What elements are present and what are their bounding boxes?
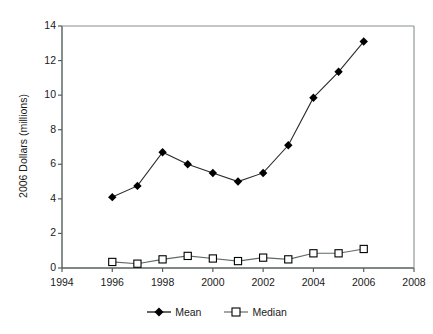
x-tick-label: 1996	[86, 276, 138, 288]
x-tick-label: 2008	[388, 276, 433, 288]
data-point-marker-mean	[133, 182, 141, 190]
x-tick-label: 1994	[36, 276, 88, 288]
data-point-marker-median	[159, 256, 166, 263]
y-tick-label: 2	[18, 226, 56, 238]
data-point-marker-median	[310, 250, 317, 257]
data-point-marker-mean	[209, 169, 217, 177]
data-point-marker-median	[234, 257, 241, 264]
data-point-marker-median	[360, 245, 367, 252]
legend-label-median: Median	[252, 307, 286, 318]
y-tick-label: 14	[18, 19, 56, 31]
legend-marker-open-square	[223, 306, 249, 318]
legend-item-mean: Mean	[146, 306, 201, 318]
data-point-marker-median	[335, 250, 342, 257]
data-series-layer	[108, 37, 368, 267]
y-tick-label: 10	[18, 88, 56, 100]
data-point-marker-median	[285, 256, 292, 263]
chart-legend: Mean Median	[0, 306, 433, 318]
axis-lines	[62, 26, 414, 268]
y-tick-label: 8	[18, 123, 56, 135]
y-axis-title: 2006 Dollars (millions)	[17, 61, 29, 231]
chart-container: 2006 Dollars (millions) 02468101214 1994…	[0, 0, 433, 334]
x-tick-label: 2000	[187, 276, 239, 288]
legend-marker-filled-diamond	[146, 306, 172, 318]
y-tick-label: 4	[18, 192, 56, 204]
y-tick-label: 6	[18, 157, 56, 169]
y-tick-label: 12	[18, 54, 56, 66]
data-point-marker-median	[184, 252, 191, 259]
x-tick-label: 2006	[338, 276, 390, 288]
data-point-marker-mean	[234, 177, 242, 185]
legend-item-median: Median	[223, 306, 286, 318]
data-point-marker-mean	[108, 193, 116, 201]
y-tick-label: 0	[18, 261, 56, 273]
data-point-marker-median	[109, 258, 116, 265]
x-tick-label: 1998	[137, 276, 189, 288]
data-point-marker-mean	[158, 148, 166, 156]
data-point-marker-median	[260, 254, 267, 261]
x-tick-label: 2004	[287, 276, 339, 288]
data-point-marker-mean	[184, 160, 192, 168]
legend-label-mean: Mean	[175, 307, 201, 318]
data-point-marker-median	[134, 260, 141, 267]
x-tick-label: 2002	[237, 276, 289, 288]
data-point-marker-median	[209, 255, 216, 262]
series-line-mean	[112, 42, 363, 198]
